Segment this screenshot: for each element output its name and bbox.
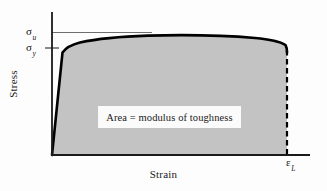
sigma-u-label: σu [26, 25, 36, 40]
x-axis-title: Strain [0, 168, 327, 180]
epsilon-l-symbol: ε [286, 156, 291, 168]
epsilon-l-subscript: L [291, 164, 295, 173]
stress-strain-figure: Stress Strain σu σy εL Area = modulus of… [0, 0, 327, 191]
sigma-y-label: σy [26, 41, 35, 56]
stress-strain-plot [0, 0, 327, 191]
epsilon-l-label: εL [286, 156, 295, 171]
toughness-annotation: Area = modulus of toughness [98, 106, 241, 128]
toughness-area-fill [52, 35, 287, 155]
y-axis-title: Stress [7, 54, 19, 114]
sigma-y-subscript: y [32, 49, 35, 58]
